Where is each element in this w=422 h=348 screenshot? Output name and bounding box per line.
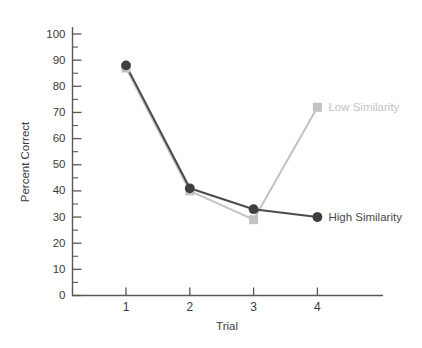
y-tick-label: 70 <box>53 106 66 118</box>
data-point-high-similarity <box>249 204 259 214</box>
x-axis-ticks <box>126 288 317 296</box>
y-axis-ticks <box>73 34 82 296</box>
x-tick-label: 1 <box>123 300 130 314</box>
y-axis-title: Percent Correct <box>19 121 31 202</box>
y-tick-label: 50 <box>53 158 66 170</box>
y-axis-tick-labels: 0102030405060708090100 <box>46 28 65 302</box>
x-axis-tick-labels: 1234 <box>123 300 321 314</box>
legend-high-similarity: High Similarity <box>313 211 402 223</box>
axes-group <box>73 27 384 296</box>
data-point-high-similarity <box>121 60 131 70</box>
legend-label-low-similarity: Low Similarity <box>328 101 399 113</box>
y-tick-label: 100 <box>46 28 65 40</box>
line-chart-figure: 0102030405060708090100 1234 Trial Percen… <box>0 0 422 348</box>
y-tick-label: 40 <box>53 184 66 196</box>
y-tick-label: 0 <box>59 289 65 301</box>
y-tick-label: 90 <box>53 54 66 66</box>
data-point-low-similarity <box>249 215 258 224</box>
y-tick-label: 80 <box>53 80 66 92</box>
series-markers-low-similarity <box>122 63 322 224</box>
y-tick-label: 10 <box>53 263 66 275</box>
series-line-high-similarity <box>126 65 317 217</box>
data-point-high-similarity <box>185 183 195 193</box>
axis-lines <box>73 27 384 296</box>
legend-label-high-similarity: High Similarity <box>328 211 402 223</box>
x-tick-label: 2 <box>186 300 193 314</box>
legend-low-similarity: Low Similarity <box>313 101 399 113</box>
y-tick-label: 20 <box>53 237 66 249</box>
x-axis-title: Trial <box>216 320 238 332</box>
legend-swatch-low-icon <box>313 103 321 111</box>
chart-canvas: 0102030405060708090100 1234 Trial Percen… <box>0 0 422 348</box>
legend-swatch-high-icon <box>313 212 322 221</box>
y-tick-label: 30 <box>53 211 66 223</box>
x-tick-label: 3 <box>250 300 257 314</box>
series-line-low-similarity <box>126 68 317 220</box>
x-tick-label: 4 <box>314 300 321 314</box>
y-tick-label: 60 <box>53 132 66 144</box>
